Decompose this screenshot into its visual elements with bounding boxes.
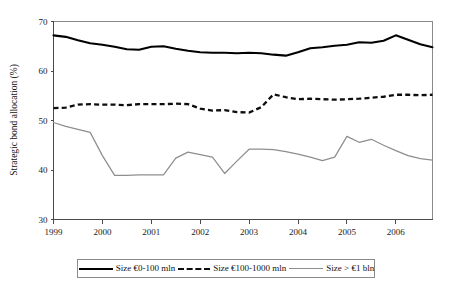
legend-label-large: Size > €1 bln [325, 264, 375, 273]
y-tick-label: 30 [39, 215, 49, 225]
legend-swatch-solid-line-icon [77, 264, 115, 274]
y-tick-label: 50 [39, 116, 49, 126]
legend-swatch-gray-line-icon [287, 264, 325, 274]
plot-area-frame [54, 22, 433, 220]
x-axis-tick-labels: 19992000200120022003200420052006 [45, 227, 406, 237]
legend-entry-large: Size > €1 bln [287, 264, 375, 274]
x-axis-ticks [54, 220, 396, 224]
x-tick-label: 2002 [191, 227, 209, 237]
y-tick-label: 40 [39, 165, 49, 175]
x-tick-label: 2006 [387, 227, 406, 237]
x-tick-label: 1999 [45, 227, 64, 237]
y-axis-title: Strategic bond allocation (%) [9, 64, 20, 176]
legend-swatch-dashed-line-icon [176, 264, 212, 274]
y-axis-tick-labels: 3040506070 [39, 17, 49, 225]
x-tick-label: 2001 [142, 227, 160, 237]
x-tick-label: 2005 [338, 227, 357, 237]
series-line-size-100-1000-mln [54, 94, 433, 112]
chart-legend: Size €0-100 mln Size €100-1000 mln Size … [77, 259, 375, 278]
legend-entry-medium: Size €100-1000 mln [176, 264, 287, 274]
line-chart-canvas: 3040506070 19992000200120022003200420052… [0, 0, 452, 290]
legend-entry-small: Size €0-100 mln [77, 264, 177, 274]
series-line-size-over-1-bln [54, 122, 433, 175]
chart-figure: 3040506070 19992000200120022003200420052… [0, 0, 452, 290]
x-tick-label: 2004 [289, 227, 308, 237]
y-tick-label: 60 [39, 66, 49, 76]
y-tick-label: 70 [39, 17, 49, 27]
series-line-size-0-100-mln [54, 35, 433, 55]
data-series-group [54, 35, 433, 175]
x-tick-label: 2000 [93, 227, 112, 237]
x-tick-label: 2003 [240, 227, 259, 237]
legend-label-small: Size €0-100 mln [115, 264, 177, 273]
legend-label-medium: Size €100-1000 mln [212, 264, 287, 273]
